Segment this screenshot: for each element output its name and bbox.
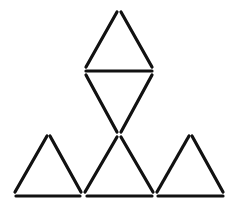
matchstick-figure [0,0,236,209]
matchstick-br-left [157,136,189,192]
matchstick-inverted-right [121,75,152,132]
matchstick-top-left [86,12,117,67]
matchstick-diagram [0,0,236,209]
matchstick-bl-left [15,136,47,192]
matchstick-bm-right [121,137,153,192]
matchstick-inverted-left [86,75,117,132]
matchstick-bm-left [85,137,117,192]
matchstick-br-right [192,136,223,192]
matchstick-bl-right [50,136,81,192]
matchstick-top-right [121,12,152,67]
